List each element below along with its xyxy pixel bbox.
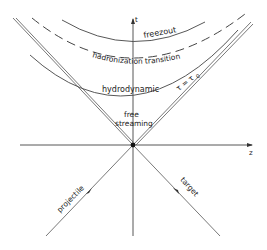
t-axis-label: t: [135, 16, 138, 24]
spacetime-diagram: t z freezout hadronization transition hy…: [0, 0, 267, 250]
target-arrow-icon: [173, 188, 179, 194]
target-label: target: [179, 175, 201, 198]
collision-point: [131, 143, 136, 148]
target-worldline: [133, 145, 220, 236]
hadronization-hyperbola: [32, 14, 245, 58]
free-streaming-label-2: streaming: [115, 119, 153, 128]
hadronization-label: hadronization transition: [91, 50, 181, 65]
free-streaming-label-1: free: [124, 110, 139, 119]
freezout-hyperbola: [62, 20, 205, 42]
freezout-label: freezout: [143, 25, 177, 40]
z-axis-label: z: [249, 149, 253, 157]
hadronization-label-group: hadronization transition: [91, 50, 182, 65]
projectile-worldline: [46, 145, 133, 236]
hydrodynamic-label: hydrodynamic: [102, 85, 159, 94]
